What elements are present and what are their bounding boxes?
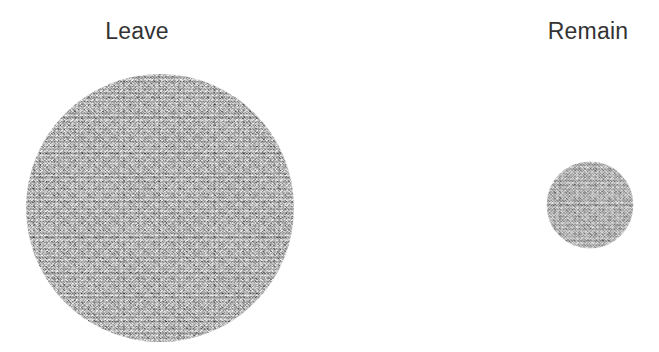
- bubble-label-leave: Leave: [105, 20, 169, 43]
- bubble-remain-edge: [546, 161, 635, 250]
- bubble-remain: [547, 162, 634, 249]
- bubble-label-remain: Remain: [548, 20, 628, 43]
- bubble-chart-figure: Leave Remain: [0, 0, 659, 352]
- bubble-leave: [26, 74, 294, 342]
- bubble-leave-edge: [25, 73, 295, 343]
